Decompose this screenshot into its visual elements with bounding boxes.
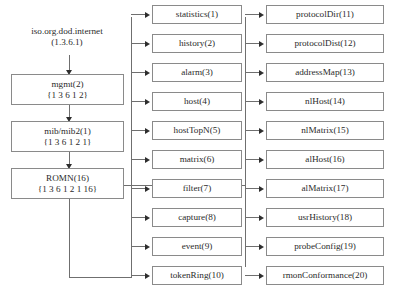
bus-middle-vertical-trunk <box>131 17 132 278</box>
connector-to-matrix <box>131 159 146 160</box>
node-alarm: alarm(3) <box>152 63 242 82</box>
bus-rmon-down-left <box>69 199 70 277</box>
connector-to-filter <box>131 188 146 189</box>
node-mib2-label: mib/mib2(1) <box>44 126 90 137</box>
node-root: iso.org.dod.internet (1.3.6.1) <box>8 22 126 52</box>
node-almatrix-label: alMatrix(17) <box>302 183 349 194</box>
node-rmon: ROMN(16) {1 3 6 1 2 1 16} <box>11 168 124 199</box>
node-tokenring-label: tokenRing(10) <box>170 270 224 281</box>
connector-to-history <box>131 43 146 44</box>
node-event: event(9) <box>152 237 242 256</box>
node-alarm-label: alarm(3) <box>181 67 213 78</box>
node-nlhost-label: nlHost(14) <box>305 96 345 107</box>
arrowhead-to-alhost <box>259 157 264 163</box>
node-alhost: alHost(16) <box>266 150 384 169</box>
node-mgmt-oid: {1 3 6 1 2} <box>47 90 88 101</box>
node-host-label: host(4) <box>184 96 210 107</box>
connector-to-hosttopn <box>131 130 146 131</box>
node-protocoldir-label: protocolDir(11) <box>296 9 354 20</box>
node-usrhistory-label: usrHistory(18) <box>298 212 352 223</box>
connector-to-alarm <box>131 72 146 73</box>
connector-to-addressmap <box>245 72 260 73</box>
node-history-label: history(2) <box>179 38 215 49</box>
arrowhead-to-protocoldist <box>259 41 264 47</box>
arrowhead-to-alarm <box>145 70 150 76</box>
node-probeconfig: probeConfig(19) <box>266 237 384 256</box>
arrowhead-to-capture <box>145 215 150 221</box>
node-protocoldist-label: protocolDist(12) <box>294 38 355 49</box>
node-history: history(2) <box>152 34 242 53</box>
node-hosttopn-label: hostTopN(5) <box>174 125 221 136</box>
node-nlhost: nlHost(14) <box>266 92 384 111</box>
node-event-label: event(9) <box>182 241 213 252</box>
node-almatrix: alMatrix(17) <box>266 179 384 198</box>
connector-to-rmonconformance <box>245 275 260 276</box>
arrowhead-to-addressmap <box>259 70 264 76</box>
node-usrhistory: usrHistory(18) <box>266 208 384 227</box>
node-probeconfig-label: probeConfig(19) <box>294 241 356 252</box>
node-mgmt: mgmt(2) {1 3 6 1 2} <box>11 74 124 105</box>
arrowhead-to-statistics <box>145 12 150 18</box>
arrowhead-to-protocoldir <box>259 12 264 18</box>
arrowhead-to-host <box>145 99 150 105</box>
node-mib2: mib/mib2(1) {1 3 6 1 2 1} <box>11 121 124 152</box>
arrowhead-to-event <box>145 244 150 250</box>
node-matrix: matrix(6) <box>152 150 242 169</box>
arrowhead-to-probeconfig <box>259 244 264 250</box>
node-capture: capture(8) <box>152 208 242 227</box>
node-filter-label: filter(7) <box>183 183 212 194</box>
connector-to-tokenring <box>131 275 146 276</box>
node-host: host(4) <box>152 92 242 111</box>
node-alhost-label: alHost(16) <box>305 154 344 165</box>
arrowhead-to-nlmatrix <box>259 128 264 134</box>
arrowhead-to-rmonconformance <box>259 273 264 279</box>
arrowhead-to-nlhost <box>259 99 264 105</box>
connector-to-statistics <box>131 14 146 15</box>
connector-to-protocoldist <box>245 43 260 44</box>
node-rmonconformance-label: rmonConformance(20) <box>283 270 368 281</box>
node-statistics: statistics(1) <box>152 5 242 24</box>
node-matrix-label: matrix(6) <box>180 154 215 165</box>
node-rmon-label: ROMN(16) <box>46 173 89 184</box>
node-nlmatrix: nlMatrix(15) <box>266 121 384 140</box>
node-mgmt-label: mgmt(2) <box>51 79 83 90</box>
node-root-label: iso.org.dod.internet <box>31 26 103 37</box>
node-rmonconformance: rmonConformance(20) <box>266 266 384 285</box>
rmon-mib-tree-diagram: iso.org.dod.internet (1.3.6.1) mgmt(2) {… <box>0 0 395 295</box>
arrowhead-to-usrhistory <box>259 215 264 221</box>
node-protocoldir: protocolDir(11) <box>266 5 384 24</box>
connector-to-nlmatrix <box>245 130 260 131</box>
arrowhead-to-tokenring <box>145 273 150 279</box>
node-tokenring: tokenRing(10) <box>152 266 242 285</box>
arrowhead-to-filter <box>145 186 150 192</box>
arrowhead-to-almatrix <box>259 186 264 192</box>
node-rmon-oid: {1 3 6 1 2 1 16} <box>38 184 97 195</box>
node-mib2-oid: {1 3 6 1 2 1} <box>44 137 92 148</box>
node-addressmap: addressMap(13) <box>266 63 384 82</box>
arrowhead-to-history <box>145 41 150 47</box>
bus-rmon-bottom-horizontal <box>69 277 132 278</box>
node-capture-label: capture(8) <box>178 212 216 223</box>
connector-to-probeconfig <box>245 246 260 247</box>
node-filter: filter(7) <box>152 179 242 198</box>
connector-to-capture <box>131 217 146 218</box>
arrowhead-to-matrix <box>145 157 150 163</box>
node-protocoldist: protocolDist(12) <box>266 34 384 53</box>
connector-to-alhost <box>245 159 260 160</box>
connector-to-host <box>131 101 146 102</box>
node-addressmap-label: addressMap(13) <box>295 67 355 78</box>
connector-to-almatrix <box>245 188 260 189</box>
node-root-oid: (1.3.6.1) <box>51 37 82 48</box>
connector-to-event <box>131 246 146 247</box>
connector-to-nlhost <box>245 101 260 102</box>
node-nlmatrix-label: nlMatrix(15) <box>301 125 348 136</box>
node-statistics-label: statistics(1) <box>176 9 218 20</box>
bus-right-vertical-trunk <box>245 17 246 267</box>
connector-to-protocoldir <box>245 14 260 15</box>
arrowhead-to-hosttopn <box>145 128 150 134</box>
connector-to-usrhistory <box>245 217 260 218</box>
node-hosttopn: hostTopN(5) <box>152 121 242 140</box>
